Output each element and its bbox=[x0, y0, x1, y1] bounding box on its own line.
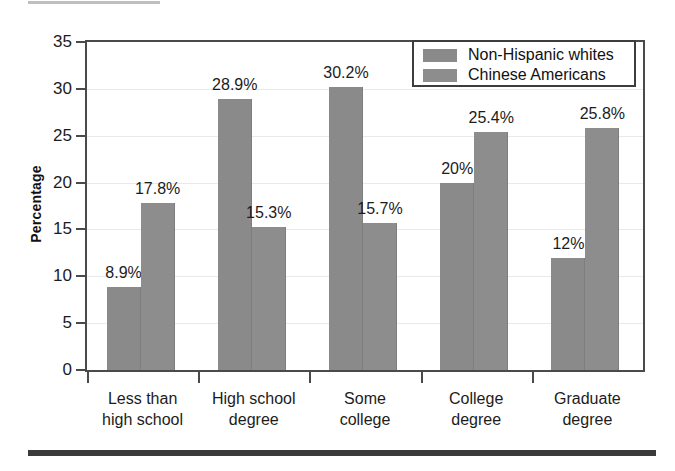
y-axis-tick bbox=[76, 182, 85, 184]
legend-swatch-chinese-americans bbox=[423, 69, 457, 82]
y-axis-tick-label: 0 bbox=[26, 361, 72, 378]
bar bbox=[252, 227, 286, 370]
legend-label-non-hispanic-whites: Non-Hispanic whites bbox=[468, 47, 614, 63]
y-axis-tick-label: 35 bbox=[26, 33, 72, 50]
bar bbox=[440, 183, 474, 370]
bar-value-label: 25.4% bbox=[456, 110, 526, 126]
y-axis-tick bbox=[76, 41, 85, 43]
bar-value-label: 30.2% bbox=[311, 65, 381, 81]
x-axis-category-label: High schooldegree bbox=[198, 388, 309, 430]
y-axis-tick bbox=[76, 322, 85, 324]
x-axis-category-label: Less thanhigh school bbox=[87, 388, 198, 430]
bar bbox=[329, 87, 363, 370]
x-axis-category-label-line: degree bbox=[532, 409, 643, 430]
x-axis-tick bbox=[421, 372, 423, 383]
bar bbox=[363, 223, 397, 370]
y-axis-tick-label: 10 bbox=[26, 267, 72, 284]
bar-value-label: 25.8% bbox=[567, 106, 637, 122]
bar-value-label: 28.9% bbox=[200, 77, 270, 93]
legend-swatch-non-hispanic-whites bbox=[423, 49, 457, 62]
y-axis-tick bbox=[76, 135, 85, 137]
x-axis-category-label-line: degree bbox=[198, 409, 309, 430]
x-axis-category-label-line: Some bbox=[309, 388, 420, 409]
x-axis-tick bbox=[198, 372, 200, 383]
y-axis-tick bbox=[76, 88, 85, 90]
x-axis-category-label-line: degree bbox=[421, 409, 532, 430]
x-axis-tick bbox=[532, 372, 534, 383]
x-axis-category-label-line: Graduate bbox=[532, 388, 643, 409]
y-axis-tick-label: 5 bbox=[26, 314, 72, 331]
bar-chart-figure: 05101520253035 Percentage Non-Hispanic w… bbox=[0, 0, 675, 440]
x-axis-category-label-line: Less than bbox=[87, 388, 198, 409]
bar bbox=[218, 99, 252, 370]
bar bbox=[551, 258, 585, 370]
page-bottom-rule bbox=[28, 450, 656, 456]
bar bbox=[107, 287, 141, 370]
bar-value-label: 17.8% bbox=[123, 181, 193, 197]
y-axis-tick bbox=[76, 369, 85, 371]
x-axis-category-label-line: high school bbox=[87, 409, 198, 430]
bar bbox=[141, 203, 175, 370]
chart-legend: Non-Hispanic whites Chinese Americans bbox=[412, 40, 636, 87]
x-axis-category-label-line: college bbox=[309, 409, 420, 430]
gridline bbox=[87, 136, 643, 137]
y-axis-title: Percentage bbox=[28, 149, 44, 259]
gridline bbox=[87, 89, 643, 90]
bar bbox=[585, 128, 619, 370]
legend-entry-1: Chinese Americans bbox=[414, 65, 634, 85]
legend-entry-0: Non-Hispanic whites bbox=[414, 45, 634, 65]
x-axis-category-label: Collegedegree bbox=[421, 388, 532, 430]
x-axis-category-label: Somecollege bbox=[309, 388, 420, 430]
bar bbox=[474, 132, 508, 370]
x-axis-tick bbox=[309, 372, 311, 383]
y-axis-tick bbox=[76, 228, 85, 230]
y-axis-tick bbox=[76, 275, 85, 277]
x-axis-category-label-line: College bbox=[421, 388, 532, 409]
y-axis-tick-label: 30 bbox=[26, 80, 72, 97]
x-axis-category-label-line: High school bbox=[198, 388, 309, 409]
x-axis-tick-origin bbox=[87, 372, 89, 383]
x-axis-category-label: Graduatedegree bbox=[532, 388, 643, 430]
y-axis-tick-label: 25 bbox=[26, 127, 72, 144]
bar-value-label: 15.7% bbox=[345, 201, 415, 217]
legend-label-chinese-americans: Chinese Americans bbox=[468, 67, 606, 83]
bar-value-label: 15.3% bbox=[234, 205, 304, 221]
